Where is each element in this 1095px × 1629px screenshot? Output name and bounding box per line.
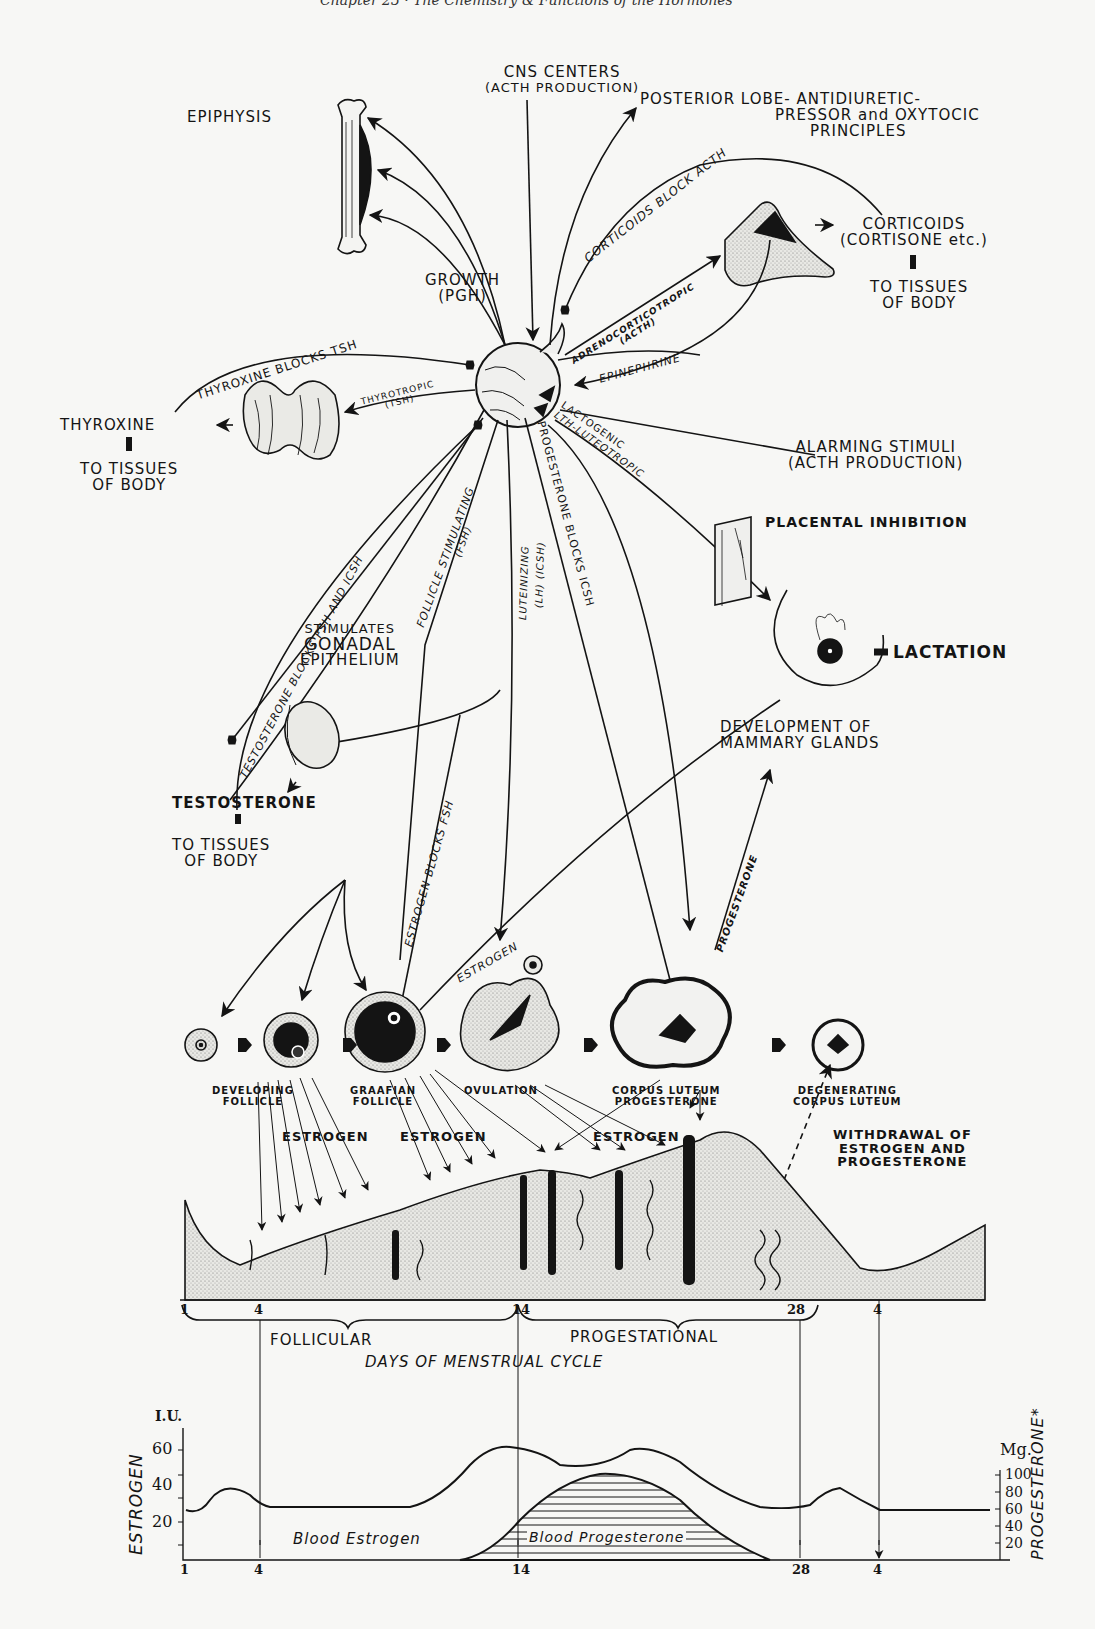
right-tick-20: 20 [1005,1535,1023,1551]
testosterone-to-tissues-label: TO TISSUES OF BODY [172,838,270,870]
bone-epiphysis-icon [338,100,371,254]
right-tick-60: 60 [1005,1501,1023,1517]
stage-label-graafian-follicle: GRAAFIAN FOLLICLE [350,1086,416,1107]
blood-progesterone-curve [460,1474,770,1560]
adrenal-gland-icon [725,202,834,286]
right-tick-40: 40 [1005,1518,1023,1534]
days-axis-title: DAYS OF MENSTRUAL CYCLE [365,1355,603,1371]
right-axis-unit: Mg. [1000,1440,1032,1459]
stimulates-gonadal-label: STIMULATES GONADAL EPITHELIUM [300,622,400,669]
left-tick-40: 40 [152,1475,172,1494]
mammary-development-label: DEVELOPMENT OF MAMMARY GLANDS [720,720,880,752]
alarming-stimuli-label: ALARMING STIMULI (ACTH PRODUCTION) [788,440,963,472]
growth-label: GROWTH (PGH) [425,273,500,305]
chart-x-tick-1: 1 [180,1562,189,1577]
chart-x-tick-28: 28 [792,1562,810,1577]
progestational-phase-label: PROGESTATIONAL [570,1330,718,1346]
posterior-lobe-label: POSTERIOR LOBE- ANTIDIURETIC- PRESSOR an… [640,92,980,139]
corticoids-label: CORTICOIDS (CORTISONE etc.) [840,217,988,249]
thyroxine-label: THYROXINE [60,418,155,434]
day-tick-1: 1 [180,1302,189,1317]
follicular-phase-label: FOLLICULAR [270,1333,372,1349]
estrogen-label-1: ESTROGEN [282,1130,369,1144]
estrogen-label-3: ESTROGEN [593,1130,680,1144]
follicle-stage-1-icon [185,1029,217,1061]
day-tick-28: 28 [787,1302,805,1317]
right-tick-80: 80 [1005,1484,1023,1500]
stage-label-ovulation: OVULATION [464,1086,538,1097]
estrogen-label-2: ESTROGEN [400,1130,487,1144]
cns-centers-label: CNS CENTERS (ACTH PRODUCTION) [485,65,639,94]
follicle-stage-2-icon [264,1013,318,1067]
left-axis-unit: I.U. [155,1408,182,1424]
chart-x-tick-4: 4 [254,1562,263,1577]
day-tick-4b: 4 [873,1302,882,1317]
epiphysis-label: EPIPHYSIS [187,110,272,126]
stage-label-corpus-luteum: CORPUS LUTEUM PROGESTERONE [612,1086,721,1107]
day-tick-14: 14 [512,1302,530,1317]
left-tick-20: 20 [152,1512,172,1531]
placental-glass-icon [715,517,751,606]
thyroxine-to-tissues-label: TO TISSUES OF BODY [80,462,178,494]
thyroid-gland-icon [243,381,339,459]
left-axis-label: ESTROGEN [128,1453,146,1555]
stage-label-degenerating-corpus-luteum: DEGENERATING CORPUS LUTEUM [793,1086,902,1107]
degenerating-corpus-luteum-icon [813,1020,863,1070]
chart-x-tick-14: 14 [512,1562,530,1577]
lactation-label: LACTATION [893,644,1007,662]
day-tick-4: 4 [254,1302,263,1317]
blood-progesterone-series-label: Blood Progesterone [527,1530,686,1545]
testosterone-label: TESTOSTERONE [172,796,317,812]
graafian-follicle-icon [345,992,425,1072]
mammary-gland-icon [774,590,883,685]
corticoids-to-tissues-label: TO TISSUES OF BODY [870,280,968,312]
placental-inhibition-label: PLACENTAL INHIBITION [765,515,968,530]
right-axis-label: PROGESTERONE* [1030,1407,1047,1560]
chart-x-tick-4b: 4 [873,1562,882,1577]
stage-label-developing-follicle: DEVELOPING FOLLICLE [212,1086,294,1107]
blood-estrogen-series-label: Blood Estrogen [293,1532,421,1548]
left-tick-60: 60 [152,1439,172,1458]
withdrawal-label: WITHDRAWAL OF ESTROGEN AND PROGESTERONE [833,1128,972,1169]
corpus-luteum-icon [612,978,730,1066]
